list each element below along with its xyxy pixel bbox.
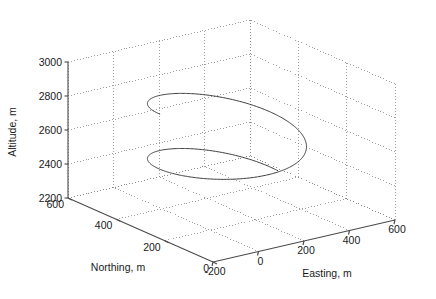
three-d-line-chart: 220024002600280030000200400600-200020040…	[0, 0, 436, 299]
x-tick-label: 200	[297, 244, 315, 256]
grid-floor-y	[116, 177, 298, 219]
grid-wallL-horiz	[68, 20, 250, 62]
z-tick-label: 2600	[39, 124, 63, 136]
z-tick-label: 2800	[39, 90, 63, 102]
x-tick-label: 400	[343, 234, 361, 246]
grid-lines	[68, 20, 395, 252]
grid-wallL-horiz	[68, 156, 250, 198]
y-tick	[213, 262, 217, 264]
grid-wallR-horiz	[250, 54, 395, 118]
x-axis-title: Easting, m	[302, 267, 352, 279]
grid-wallR-horiz	[250, 122, 395, 186]
y-axis-title: Northing, m	[91, 261, 146, 273]
grid-floor-x	[159, 177, 304, 241]
grid-wallR-horiz	[250, 156, 395, 220]
chart-container: 220024002600280030000200400600-200020040…	[0, 0, 436, 299]
grid-wallR-horiz	[250, 88, 395, 152]
z-axis-title: Altitude, m	[6, 107, 18, 157]
axis-lines	[68, 62, 395, 262]
y-tick-label: 400	[95, 219, 113, 231]
grid-wallL-horiz	[68, 88, 250, 130]
z-tick-label: 3000	[39, 56, 63, 68]
x-tick-label: -200	[204, 265, 225, 277]
y-tick-label: 600	[46, 198, 64, 210]
grid-floor-x	[250, 156, 395, 220]
y-axis	[68, 198, 213, 262]
y-tick-label: 200	[143, 241, 161, 253]
z-tick-label: 2400	[39, 158, 63, 170]
grid-floor-y	[165, 199, 347, 241]
grid-floor-x	[205, 167, 350, 231]
grid-wallR-horiz	[250, 20, 395, 84]
x-tick-label: 600	[388, 223, 406, 235]
grid-floor-x	[114, 188, 259, 252]
x-tick-label: 0	[258, 255, 264, 267]
